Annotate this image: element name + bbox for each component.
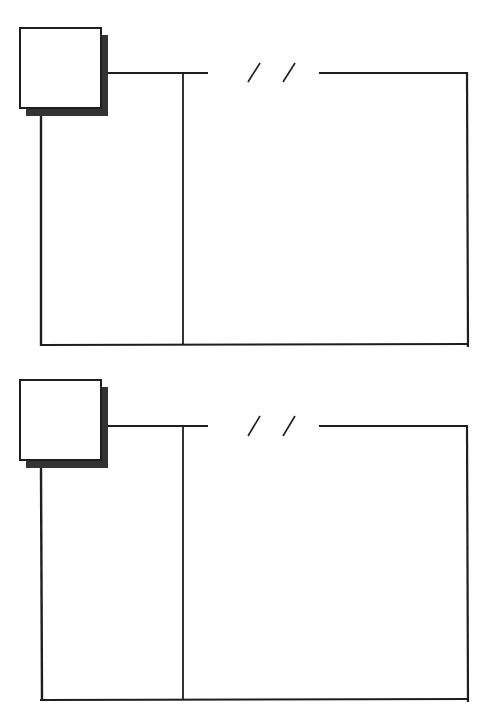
bottom-border: [40, 344, 469, 345]
photo-box[interactable]: [20, 380, 101, 460]
diary-panel-2: [0, 352, 481, 706]
date-slash-1: [248, 63, 260, 82]
diary-panel-1: [0, 0, 481, 354]
right-border: [467, 425, 468, 702]
left-border: [41, 468, 42, 701]
date-slash-1: [248, 416, 260, 436]
photo-box[interactable]: [20, 28, 101, 108]
panel-frame: [0, 0, 481, 354]
date-slash-2: [283, 63, 295, 82]
right-border: [467, 72, 468, 347]
bottom-border: [40, 699, 469, 700]
date-slash-2: [283, 416, 295, 436]
panel-frame: [0, 352, 481, 708]
